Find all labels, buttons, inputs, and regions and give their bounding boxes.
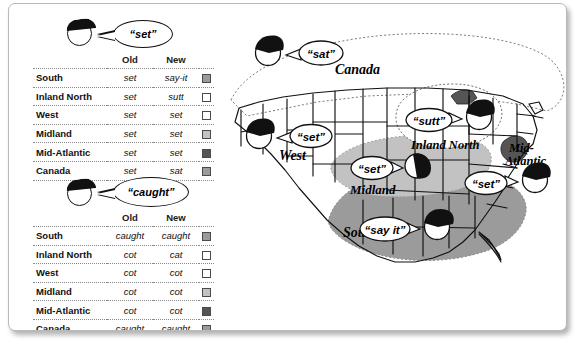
caught-row-3-old: cot xyxy=(107,282,153,301)
caught-row-0-swatch-cell xyxy=(199,227,214,246)
set-header-region xyxy=(33,54,107,69)
map-svg: Canada West Midland South Inland North M… xyxy=(217,4,566,330)
set-row-3-swatch-cell xyxy=(199,124,214,143)
caught-row-5-new: caught xyxy=(153,319,199,331)
set-row-2-region: West xyxy=(33,106,107,125)
legend-swatch xyxy=(202,130,211,139)
head-icon xyxy=(67,21,94,48)
set-row-3-old: set xyxy=(107,124,153,143)
table-row: Inland North cot cat xyxy=(33,245,214,264)
table-row: Mid-Atlantic set set xyxy=(33,143,214,162)
set-header-swatch xyxy=(199,54,214,69)
map-label-mid-atlantic-line1: Mid- xyxy=(508,141,534,155)
bubble-tail-icon xyxy=(97,32,115,40)
set-bubble-text: “set” xyxy=(130,28,157,40)
caught-header-swatch xyxy=(199,212,214,227)
caught-row-0-new: caught xyxy=(153,227,199,246)
caught-row-4-new: cot xyxy=(153,301,199,320)
caught-table-header-row: Old New xyxy=(33,212,214,227)
caught-header-old: Old xyxy=(107,212,153,227)
legend-swatch xyxy=(202,149,211,158)
callout-midland-text: “set” xyxy=(358,163,386,175)
table-row: Midland set set xyxy=(33,124,214,143)
legend-swatch xyxy=(202,325,211,331)
callout-west: “set” xyxy=(246,119,332,149)
set-header-new: New xyxy=(153,54,199,69)
set-row-1-swatch-cell xyxy=(199,87,214,106)
table-row: West set set xyxy=(33,106,214,125)
callout-canada-text: “sat” xyxy=(307,48,335,60)
map-label-midland: Midland xyxy=(349,182,396,197)
set-row-2-new: set xyxy=(153,106,199,125)
set-row-4-region: Mid-Atlantic xyxy=(33,143,107,162)
caught-row-3-swatch-cell xyxy=(199,282,214,301)
caught-row-2-new: cot xyxy=(153,264,199,283)
caught-row-1-new: cat xyxy=(153,245,199,264)
map-label-canada: Canada xyxy=(335,62,380,77)
set-row-4-old: set xyxy=(107,143,153,162)
caught-row-1-old: cot xyxy=(107,245,153,264)
table-row: Inland North set sutt xyxy=(33,87,214,106)
caught-speech-bubble: “caught” xyxy=(113,177,189,207)
map-label-west: West xyxy=(279,148,307,163)
tables-column: “set” Old New South set say-it xyxy=(9,4,219,330)
set-table: Old New South set say-it Inland North se… xyxy=(33,54,214,181)
set-row-1-region: Inland North xyxy=(33,87,107,106)
table-row: South set say-it xyxy=(33,69,214,88)
set-table-body: South set say-it Inland North set sutt W… xyxy=(33,69,214,181)
caught-bubble-text: “caught” xyxy=(127,186,174,198)
caught-row-5-swatch-cell xyxy=(199,319,214,331)
set-row-0-old: set xyxy=(107,69,153,88)
set-row-3-new: set xyxy=(153,124,199,143)
map-label-inland-north: Inland North xyxy=(410,138,479,152)
caught-table: Old New South caught caught Inland North… xyxy=(33,212,214,331)
caught-row-0-old: caught xyxy=(107,227,153,246)
caught-table-body: South caught caught Inland North cot cat… xyxy=(33,227,214,332)
table-row: Canada caught caught xyxy=(33,319,214,331)
table-row: West cot cot xyxy=(33,264,214,283)
caught-row-4-swatch-cell xyxy=(199,301,214,320)
bubble-tail-icon xyxy=(97,190,115,198)
callout-inland-north-text: “sutt” xyxy=(413,115,446,127)
caught-header-region xyxy=(33,212,107,227)
legend-swatch xyxy=(202,74,211,83)
caught-row-2-region: West xyxy=(33,264,107,283)
table-row: Midland cot cot xyxy=(33,282,214,301)
dialect-map: Canada West Midland South Inland North M… xyxy=(217,4,566,330)
legend-swatch xyxy=(202,251,211,260)
set-row-0-region: South xyxy=(33,69,107,88)
caught-row-5-old: caught xyxy=(107,319,153,331)
set-row-3-region: Midland xyxy=(33,124,107,143)
caught-row-3-region: Midland xyxy=(33,282,107,301)
caught-row-2-old: cot xyxy=(107,264,153,283)
table-row: Mid-Atlantic cot cot xyxy=(33,301,214,320)
set-row-1-old: set xyxy=(107,87,153,106)
set-row-1-new: sutt xyxy=(153,87,199,106)
caught-row-2-swatch-cell xyxy=(199,264,214,283)
table-row: South caught caught xyxy=(33,227,214,246)
set-row-0-new: say-it xyxy=(153,69,199,88)
caught-row-1-region: Inland North xyxy=(33,245,107,264)
set-row-4-swatch-cell xyxy=(199,143,214,162)
legend-swatch xyxy=(202,232,211,241)
legend-swatch xyxy=(202,269,211,278)
set-header-old: Old xyxy=(107,54,153,69)
head-icon xyxy=(67,181,94,208)
set-speech-bubble: “set” xyxy=(113,20,173,48)
legend-swatch xyxy=(202,93,211,102)
legend-swatch xyxy=(202,288,211,297)
set-speaker-row: “set” xyxy=(9,12,219,58)
caught-row-1-swatch-cell xyxy=(199,245,214,264)
caught-row-4-region: Mid-Atlantic xyxy=(33,301,107,320)
set-row-4-new: set xyxy=(153,143,199,162)
set-row-2-swatch-cell xyxy=(199,106,214,125)
figure-panel: “set” Old New South set say-it xyxy=(8,3,567,331)
legend-swatch xyxy=(202,111,211,120)
caught-row-4-old: cot xyxy=(107,301,153,320)
set-row-0-swatch-cell xyxy=(199,69,214,88)
caught-header-new: New xyxy=(153,212,199,227)
caught-row-3-new: cot xyxy=(153,282,199,301)
caught-row-0-region: South xyxy=(33,227,107,246)
callout-west-text: “set” xyxy=(297,131,325,143)
set-table-header-row: Old New xyxy=(33,54,214,69)
